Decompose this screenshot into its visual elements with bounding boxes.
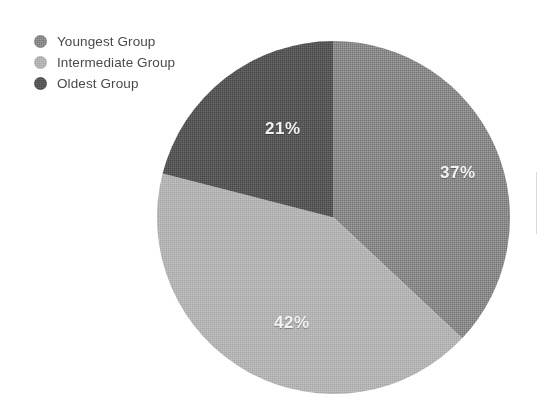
slice-label-youngest-group: 37%: [440, 163, 476, 183]
circle-marker-icon: [34, 56, 47, 69]
pie-chart-plot-area: 21% 37% 42%: [157, 41, 510, 394]
pie-chart-figure: Youngest Group Intermediate Group Oldest…: [0, 0, 541, 406]
pie-slices-svg: [157, 41, 510, 394]
legend-item-label: Oldest Group: [57, 76, 139, 91]
scan-artifact-line: [536, 172, 537, 234]
legend-item-label: Youngest Group: [57, 34, 155, 49]
slice-label-oldest-group: 21%: [265, 119, 301, 139]
circle-marker-icon: [34, 35, 47, 48]
slice-label-intermediate-group: 42%: [274, 313, 310, 333]
circle-marker-icon: [34, 77, 47, 90]
